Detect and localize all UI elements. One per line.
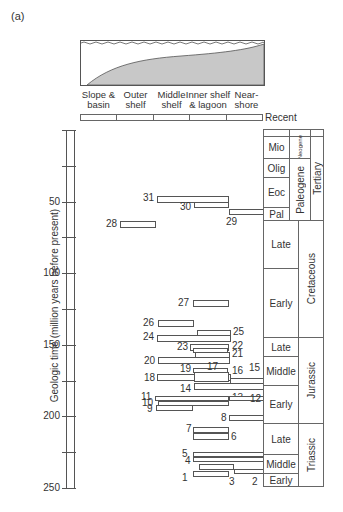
y-tick — [62, 452, 76, 453]
neogene-label: Neogene — [297, 135, 303, 159]
bar-label-17: 17 — [207, 362, 218, 372]
epoch-early-triassic: Early — [263, 473, 299, 487]
env-header-slope-basin: Slope & basin — [80, 90, 117, 110]
range-bar-14 — [194, 383, 264, 390]
env-header-near-shore: Near- shore — [228, 90, 265, 110]
bar-label-18: 18 — [144, 373, 155, 383]
epoch-paleocene: Pal — [263, 207, 290, 221]
cretaceous-label: Cretaceous — [306, 253, 317, 304]
period-tertiary: Tertiary — [310, 136, 324, 221]
range-bar-4 — [193, 457, 264, 462]
epoch-middle-jurassic: Middle — [263, 356, 299, 386]
period-cretaceous: Cretaceous — [298, 220, 324, 338]
env-label-line2: & lagoon — [184, 100, 232, 110]
period-jurassic: Jurassic — [298, 337, 324, 424]
range-bar-1 — [193, 471, 229, 477]
period-triassic: Triassic — [298, 423, 324, 487]
env-header-inner-shelf-lagoon: Inner shelf & lagoon — [184, 90, 232, 110]
range-bar-17 — [194, 372, 229, 382]
y-tick — [62, 381, 76, 382]
triassic-label: Triassic — [306, 438, 317, 472]
epoch-early-jurassic: Early — [263, 385, 299, 424]
epoch-eocene: Eoc — [263, 177, 290, 208]
env-label-line2: basin — [80, 100, 117, 110]
epoch-miocene: Mio — [263, 136, 290, 159]
range-bar-29 — [229, 209, 264, 215]
bar-label-20: 20 — [144, 356, 155, 366]
range-bar-24 — [157, 335, 231, 342]
bar-label-25: 25 — [233, 327, 244, 337]
epoch-middle-triassic: Middle — [263, 454, 299, 474]
range-bar-9 — [156, 405, 193, 411]
seafloor-profile-icon — [81, 41, 264, 85]
y-tick — [62, 166, 76, 167]
bar-label-28: 28 — [106, 219, 117, 229]
env-box-near-shore — [226, 114, 263, 121]
y-tick — [62, 237, 76, 238]
env-box-inner-shelf — [189, 114, 227, 121]
bar-label-12: 12 — [250, 394, 261, 404]
paleogene-label: Paleogene — [295, 166, 306, 214]
bar-label-16: 16 — [232, 366, 243, 376]
range-bar-8 — [229, 415, 264, 421]
y-tick — [62, 345, 76, 346]
y-axis-title: Geologic time (million years before pres… — [49, 186, 60, 426]
y-tick — [62, 202, 76, 203]
bar-label-23: 23 — [177, 342, 188, 352]
epoch-late-triassic: Late — [263, 423, 299, 455]
bar-label-2: 2 — [252, 477, 258, 487]
bar-label-26: 26 — [143, 318, 154, 328]
epoch-early-cretaceous: Early — [263, 268, 299, 338]
range-bar-2 — [234, 469, 264, 474]
bar-label-31: 31 — [143, 193, 154, 203]
bar-label-4: 4 — [185, 456, 191, 466]
bar-label-9: 9 — [147, 404, 153, 414]
bar-label-30: 30 — [180, 202, 191, 212]
range-bar-6 — [193, 433, 229, 440]
shelf-profile-illustration — [80, 40, 265, 86]
bar-label-6: 6 — [231, 432, 237, 442]
range-bar-26 — [158, 320, 194, 327]
y-tick — [62, 309, 76, 310]
y-tick — [62, 130, 76, 131]
subperiod-paleogene: Paleogene — [289, 158, 311, 221]
epoch-late-jurassic: Late — [263, 337, 299, 357]
bar-label-8: 8 — [221, 413, 227, 423]
epoch-late-cretaceous: Late — [263, 220, 299, 269]
epoch-oligocene: Olig — [263, 158, 290, 178]
y-tick — [62, 273, 76, 274]
env-box-slope-basin — [80, 114, 117, 121]
range-bar-27 — [193, 300, 229, 307]
bar-label-19: 19 — [180, 364, 191, 374]
range-bar-3 — [199, 464, 234, 470]
jurassic-label: Jurassic — [306, 362, 317, 399]
bar-label-27: 27 — [178, 298, 189, 308]
bar-label-1: 1 — [182, 473, 188, 483]
bar-label-7: 7 — [186, 424, 192, 434]
env-label-line2: shelf — [117, 100, 154, 110]
env-label-line2: shore — [228, 100, 265, 110]
panel-label: (a) — [11, 10, 24, 22]
range-bar-30 — [194, 202, 229, 208]
y-tick — [62, 488, 76, 489]
env-box-outer-shelf — [116, 114, 154, 121]
y-tick — [62, 416, 76, 417]
bar-label-3: 3 — [229, 477, 235, 487]
env-header-outer-shelf: Outer shelf — [117, 90, 154, 110]
range-bar-28 — [120, 221, 156, 228]
range-bar-20 — [158, 357, 230, 364]
bar-label-21: 21 — [232, 349, 243, 359]
recent-label: Recent — [265, 112, 297, 123]
bar-label-14: 14 — [180, 384, 191, 394]
bar-label-15: 15 — [249, 363, 260, 373]
bar-label-29: 29 — [226, 217, 237, 227]
y-tick-label: 250 — [30, 482, 60, 493]
tertiary-label: Tertiary — [312, 162, 323, 195]
env-box-middle-shelf — [153, 114, 190, 121]
bar-label-24: 24 — [143, 332, 154, 342]
subperiod-neogene: Neogene — [289, 136, 311, 159]
